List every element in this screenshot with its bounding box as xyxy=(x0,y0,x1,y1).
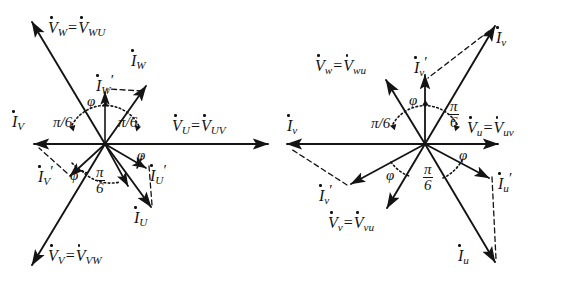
label-V-w: Vw=Vwu xyxy=(315,58,366,74)
label-I-V-prime: IV′ xyxy=(38,163,54,185)
label-angle-phi-upper: φ xyxy=(87,94,95,109)
label-V-v: Vv=Vvu xyxy=(328,215,374,231)
arc-tick-r1 xyxy=(391,125,396,130)
right-phasor-diagram: Vw=Vwu Vu=Vuv Vv=Vvu Iv Iv′ Iv Iv′ Iu′ I… xyxy=(283,0,566,294)
label-I-W: IW xyxy=(131,53,146,69)
label-V-W: VW=VWU xyxy=(48,20,105,36)
label-angle-pi6-right: π 6 xyxy=(449,100,459,132)
right-diagram-vectors xyxy=(283,0,566,294)
label-angle-phi-top: φ xyxy=(409,93,417,108)
label-angle-pi6-bottom: π 6 xyxy=(95,166,105,198)
label-angle-pi6-right-top: π/6 xyxy=(118,115,137,130)
label-angle-phi-lower-right: φ xyxy=(137,148,145,163)
arc-tick-3 xyxy=(103,102,108,106)
label-I-U: IU xyxy=(134,210,147,226)
label-I-v-prime-lower: Iv′ xyxy=(319,182,333,204)
label-angle-phi-right: φ xyxy=(459,148,467,163)
label-V-U: VU=VUV xyxy=(172,118,226,134)
label-V-V: VV=VVW xyxy=(48,248,102,264)
label-I-v-left: Iv xyxy=(287,118,297,134)
label-angle-pi6-left-top: π/6 xyxy=(53,115,72,130)
label-I-v-prime-top: Iv′ xyxy=(414,54,428,76)
dashed-link-v-lower xyxy=(291,149,347,185)
label-angle-pi6-bottom: π 6 xyxy=(423,163,433,195)
label-angle-phi-left: φ xyxy=(386,168,394,183)
left-phasor-diagram: VW=VWU VU=VUV VV=VVW IW IW′ IV IV′ IU′ I… xyxy=(0,0,283,294)
dashed-link-v-top xyxy=(428,31,489,78)
label-I-u-prime: Iu′ xyxy=(498,170,512,192)
dashed-link-u xyxy=(492,177,496,259)
label-I-U-prime: IU′ xyxy=(150,162,167,184)
arc-tick-r3 xyxy=(423,101,428,105)
phasor-figure: VW=VWU VU=VUV VV=VVW IW IW′ IV IV′ IU′ I… xyxy=(0,0,566,294)
label-I-V: IV xyxy=(12,114,24,130)
label-I-u: Iu xyxy=(458,248,469,264)
label-V-u: Vu=Vuv xyxy=(467,120,514,136)
label-angle-pi6-left: π/6 xyxy=(371,116,390,131)
label-I-W-prime: IW′ xyxy=(96,72,114,94)
label-angle-phi-lower-left: φ xyxy=(70,168,78,183)
label-I-v-top: Iv xyxy=(496,30,506,46)
